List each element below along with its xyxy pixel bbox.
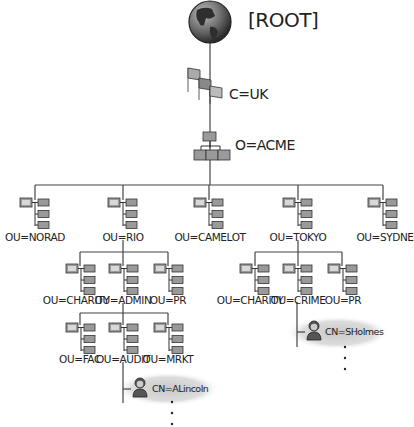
ou-icon-tokyo-pr — [328, 264, 357, 295]
org-chart-icon — [194, 132, 230, 160]
ou-label-sydney: OU=SYDNE — [356, 231, 413, 243]
ou-label-tokyo: OU=TOKYO — [270, 231, 327, 243]
ou-icon-fac — [66, 323, 95, 354]
ou-icon-camelot — [194, 198, 223, 229]
cn-label-alincoln: CN=ALincoln — [152, 383, 208, 394]
ou-icon-norad — [20, 198, 49, 229]
cn-label-sholmes: CN=SHolmes — [325, 326, 383, 337]
root-label: [ROOT] — [248, 8, 318, 32]
ou-icon-rio-charity — [66, 264, 95, 295]
ou-icon-audit — [109, 323, 138, 354]
ou-label-norad: OU=NORAD — [5, 231, 65, 243]
ou-icon-tokyo-crime — [283, 264, 312, 295]
ou-label-rio-pr: OU=PR — [150, 294, 186, 306]
ou-label-fac: OU=FAC — [59, 353, 101, 365]
ou-label-tokyo-pr: OU=PR — [325, 294, 361, 306]
flags-icon — [188, 68, 222, 104]
ou-icon-tokyo-charity — [240, 264, 269, 295]
ou-icon-rio — [108, 198, 137, 229]
ou-label-tokyo-crime: OU=CRIME — [271, 294, 326, 306]
ou-label-mrkt: OU=MRKT — [143, 353, 194, 365]
ou-icon-tokyo — [283, 198, 312, 229]
country-label: C=UK — [229, 86, 268, 102]
ou-icon-sydney — [368, 198, 397, 229]
ou-icon-mrkt — [154, 323, 183, 354]
globe-icon — [189, 1, 231, 43]
ou-icon-rio-admin — [109, 264, 138, 295]
ou-label-rio-admin: OU=ADMIN — [95, 294, 152, 306]
organization-label: O=ACME — [235, 137, 295, 153]
ou-label-camelot: OU=CAMELOT — [174, 231, 245, 243]
ou-icon-rio-pr — [154, 264, 183, 295]
ou-label-rio: OU=RIO — [102, 231, 143, 243]
